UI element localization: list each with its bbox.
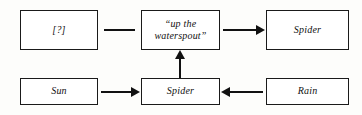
connector-sun-to-spider-bottom xyxy=(99,84,140,100)
node-unknown-label: [?] xyxy=(49,24,68,37)
connector-line xyxy=(104,29,135,31)
connector-line xyxy=(229,91,263,93)
node-phrase-label: “up the waterspout” xyxy=(151,18,209,43)
connector-line xyxy=(101,91,132,93)
arrowhead-right-icon xyxy=(131,87,140,97)
connector-unknown-to-phrase xyxy=(99,22,140,38)
arrowhead-right-icon xyxy=(256,25,265,35)
node-rain: Rain xyxy=(266,78,349,105)
arrowhead-up-icon xyxy=(175,50,185,59)
diagram-canvas: [?] “up the waterspout” Spider Sun Spide… xyxy=(0,0,362,115)
node-spider-top: Spider xyxy=(266,10,349,50)
node-spider-top-label: Spider xyxy=(291,24,324,37)
node-spider-bottom: Spider xyxy=(141,78,220,105)
node-rain-label: Rain xyxy=(295,85,321,98)
node-unknown: [?] xyxy=(20,10,98,50)
connector-line xyxy=(223,29,257,31)
node-spider-bottom-label: Spider xyxy=(164,85,197,98)
node-sun: Sun xyxy=(20,78,98,105)
connector-phrase-to-spider-top xyxy=(221,22,265,38)
connector-rain-to-spider-bottom xyxy=(221,84,265,100)
connector-spider-bottom-to-phrase xyxy=(172,50,188,79)
connector-line xyxy=(179,57,181,78)
node-phrase: “up the waterspout” xyxy=(141,10,220,50)
arrowhead-left-icon xyxy=(221,87,230,97)
node-sun-label: Sun xyxy=(48,85,70,98)
